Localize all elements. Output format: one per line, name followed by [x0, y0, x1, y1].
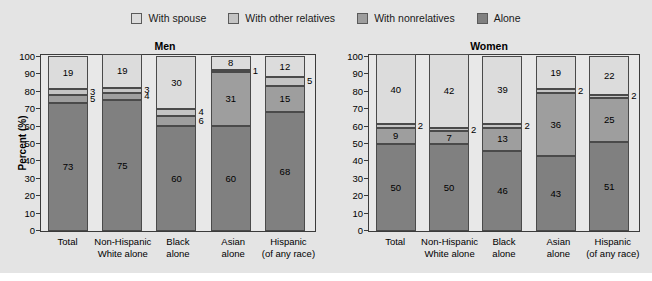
bar-segment[interactable]: 15	[265, 86, 305, 112]
bar-segment-value: 31	[225, 94, 236, 104]
bar-segment[interactable]: 50	[429, 144, 469, 232]
bar-segment[interactable]	[429, 128, 469, 132]
stacked-bar[interactable]: 60318	[211, 55, 251, 231]
bar-segment[interactable]: 46	[482, 151, 522, 232]
bar-segment-value: 50	[444, 183, 455, 193]
stacked-bar[interactable]: 461339	[482, 55, 522, 231]
bar-segment[interactable]: 13	[482, 128, 522, 151]
bar-segment[interactable]: 60	[211, 126, 251, 231]
bar-slot: 2512522	[583, 55, 636, 231]
bar-segment[interactable]: 75	[102, 100, 142, 231]
y-tick-label: 10	[352, 207, 363, 218]
stacked-bar[interactable]: 50742	[429, 55, 469, 231]
bar-segment[interactable]: 73	[48, 103, 88, 231]
bar-segment-value: 36	[551, 120, 562, 130]
legend-item-label: With nonrelatives	[374, 12, 455, 24]
bar-segment-value: 2	[631, 90, 636, 101]
bar-segment[interactable]: 68	[265, 112, 305, 231]
bar-segment[interactable]: 9	[376, 128, 416, 144]
bar-segment[interactable]: 19	[536, 56, 576, 89]
bar-segment[interactable]: 60	[156, 126, 196, 231]
bar-segment[interactable]: 43	[536, 156, 576, 231]
legend-swatch-icon	[357, 13, 368, 24]
bar-segment[interactable]: 36	[536, 93, 576, 156]
y-tick-label: 70	[352, 103, 363, 114]
y-tick-label: 90	[24, 68, 35, 79]
bar-slot: 5681512	[258, 55, 312, 231]
bar-segment-value: 43	[551, 189, 562, 199]
bar-segment-value: 75	[117, 161, 128, 171]
stacked-bar[interactable]: 7519	[102, 55, 142, 231]
bar-segment-value: 40	[390, 85, 401, 95]
figure-caption	[0, 273, 652, 281]
x-axis-label: Hispanic(of any race)	[580, 236, 646, 259]
bar-segment[interactable]	[156, 116, 196, 127]
bar-segment[interactable]: 31	[211, 72, 251, 126]
bar-segment[interactable]	[265, 77, 305, 86]
bar-segment[interactable]: 12	[265, 56, 305, 77]
bar-segment[interactable]: 8	[211, 56, 251, 70]
bar-slot: 537319	[41, 55, 95, 231]
bar-segment[interactable]: 22	[589, 56, 629, 95]
x-axis-labels-men: TotalNon-HispanicWhite aloneBlackaloneAs…	[40, 236, 316, 272]
y-axis-men: Percent (%) 1009080706050403020100	[6, 54, 40, 232]
chart-figure: With spouseWith other relativesWith nonr…	[0, 0, 652, 281]
bar-slot: 2433619	[529, 55, 582, 231]
chart-panel-women: Women 1009080706050403020100 25094025074…	[330, 40, 648, 275]
bar-segment[interactable]	[156, 109, 196, 116]
panel-title-women: Women	[330, 40, 648, 52]
bar-segment[interactable]: 50	[376, 144, 416, 232]
legend-item-2[interactable]: With nonrelatives	[357, 12, 455, 24]
bar-segment[interactable]: 7	[429, 131, 469, 143]
x-axis-label-line2: (of any race)	[255, 248, 322, 260]
bar-segment[interactable]: 19	[102, 54, 142, 87]
y-tick-label: 30	[24, 172, 35, 183]
bar-segment[interactable]	[102, 93, 142, 100]
bar-segment[interactable]	[48, 95, 88, 104]
bar-segment-value: 68	[280, 167, 291, 177]
bar-segment-value: 51	[604, 182, 615, 192]
bar-segment-value: 39	[497, 85, 508, 95]
bar-segment[interactable]: 39	[482, 56, 522, 124]
bar-segment-value: 22	[604, 71, 615, 81]
bar-segment[interactable]: 25	[589, 98, 629, 142]
legend-item-0[interactable]: With spouse	[131, 12, 206, 24]
bar-segment[interactable]: 51	[589, 142, 629, 231]
x-axis-label-line1: Hispanic	[255, 236, 322, 248]
bar-segment-value: 19	[117, 66, 128, 76]
stacked-bar[interactable]: 7319	[48, 55, 88, 231]
bar-segment-value: 60	[225, 174, 236, 184]
legend-item-3[interactable]: Alone	[477, 12, 521, 24]
bar-segment[interactable]: 40	[376, 54, 416, 124]
bar-segment-value: 15	[280, 94, 291, 104]
bar-segment[interactable]	[536, 89, 576, 93]
stacked-bar[interactable]: 6030	[156, 55, 196, 231]
stacked-bar[interactable]: 50940	[376, 55, 416, 231]
bar-segment[interactable]	[48, 89, 88, 94]
bar-slot: 250742	[422, 55, 475, 231]
bar-segment[interactable]: 19	[48, 56, 88, 89]
bar-segment[interactable]	[102, 88, 142, 93]
y-tick-label: 40	[24, 155, 35, 166]
y-tick-label: 50	[352, 138, 363, 149]
bar-segment-value: 13	[497, 134, 508, 144]
legend-item-1[interactable]: With other relatives	[228, 12, 335, 24]
bar-segment[interactable]	[211, 70, 251, 72]
stacked-bar[interactable]: 681512	[265, 55, 305, 231]
y-tick-label: 40	[352, 155, 363, 166]
bar-segment-value: 42	[444, 86, 455, 96]
panel-title-men: Men	[6, 40, 324, 52]
bar-segment[interactable]	[589, 95, 629, 99]
y-tick-label: 0	[30, 225, 35, 236]
x-axis-label-line2: (of any race)	[580, 248, 646, 260]
stacked-bar[interactable]: 512522	[589, 55, 629, 231]
stacked-bar[interactable]: 433619	[536, 55, 576, 231]
plot-area-men: 5373194375196460301603185681512	[40, 54, 316, 232]
bar-segment[interactable]	[482, 124, 522, 128]
plot-area-women: 250940250742246133924336192512522	[368, 54, 640, 232]
bar-segment[interactable]: 30	[156, 56, 196, 109]
bar-segment[interactable]: 42	[429, 54, 469, 128]
bar-segment[interactable]	[376, 124, 416, 128]
legend-item-label: Alone	[494, 12, 521, 24]
bar-segment-value: 8	[228, 58, 233, 68]
